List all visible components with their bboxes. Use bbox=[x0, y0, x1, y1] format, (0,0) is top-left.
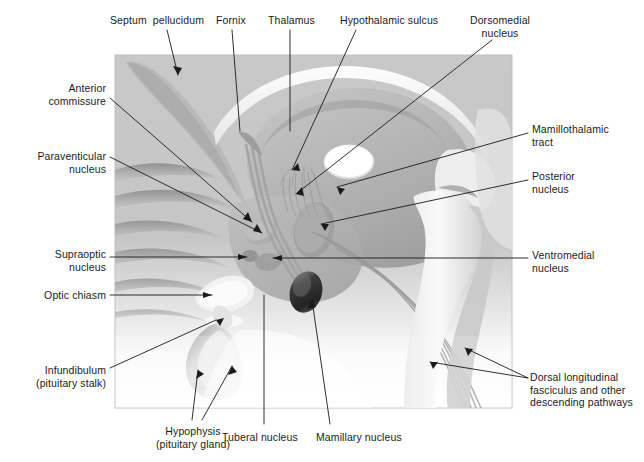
label-anterior-commissure: Anterior commissure bbox=[0, 82, 106, 107]
label-septum-pellucidum: Septum pellucidum bbox=[110, 14, 224, 27]
label-tuberal-nucleus: Tuberal nucleus bbox=[222, 431, 316, 444]
label-thalamus: Thalamus bbox=[268, 14, 328, 27]
label-posterior-nucleus: Posterior nucleus bbox=[532, 170, 632, 195]
label-dorsomedial-nucleus: Dorsomedial nucleus bbox=[450, 14, 550, 39]
label-mamillothalamic-tract: Mamillothalamic tract bbox=[532, 123, 644, 148]
label-ventromedial-nucleus: Ventromedial nucleus bbox=[532, 249, 636, 274]
label-hypothalamic-sulcus: Hypothalamic sulcus bbox=[340, 14, 460, 27]
label-supraoptic-nucleus: Supraoptic nucleus bbox=[0, 248, 106, 273]
label-paraventricular-nucleus: Paraventicular nucleus bbox=[0, 150, 106, 175]
label-optic-chiasm: Optic chiasm bbox=[0, 289, 106, 302]
label-mamillary-nucleus: Mamillary nucleus bbox=[316, 431, 424, 444]
label-fornix: Fornix bbox=[216, 14, 264, 27]
label-dorsal-longitudinal-fasciculus: Dorsal longitudinal fasciculus and other… bbox=[530, 371, 644, 409]
supraoptic-nucleus-body bbox=[242, 250, 258, 262]
label-infundibulum: Infundibulum (pituitary stalk) bbox=[0, 364, 106, 389]
